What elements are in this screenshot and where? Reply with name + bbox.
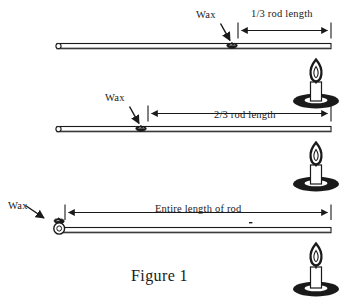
rod-entire [57,228,331,233]
wax-blob-two-thirds [136,125,147,131]
figure-caption: Figure 1 [131,267,188,285]
figure-graphics [0,0,364,306]
wax-pointer-entire [26,206,45,219]
figure-1-diagram: Wax 1/3 rod length Wax 2/3 rod length Wa… [0,0,364,306]
candle-one-third [293,60,339,109]
candle-entire [293,244,339,297]
wax-blob-one-third [227,42,238,48]
wax-pointer-one-third [221,24,231,41]
rod-assembly-two-thirds [56,106,339,192]
rod-assembly-one-third [56,23,339,109]
rod-one-third [56,44,331,49]
dimension-one-third [238,23,331,39]
rod-two-thirds [56,127,331,132]
dimension-label-two-thirds: 2/3 rod length [214,109,276,120]
wax-label-two-thirds: Wax [105,92,125,103]
wax-pointer-two-thirds [130,107,140,124]
wax-label-one-third: Wax [196,9,216,20]
candle-two-thirds [293,143,339,192]
dimension-label-one-third: 1/3 rod length [251,8,313,19]
wax-blob-entire [54,218,65,234]
dimension-label-entire: Entire length of rod [155,203,242,214]
wax-label-entire: Wax [8,200,28,211]
